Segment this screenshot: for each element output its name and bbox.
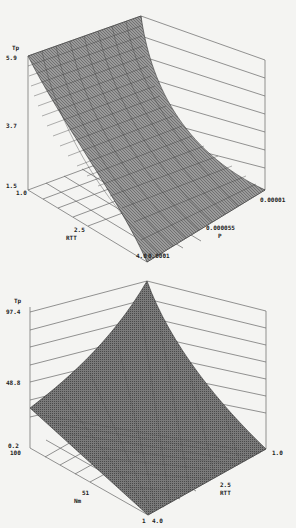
plot1-y-tick-start: 0.0001 [148,252,170,259]
plot2-x-tick-start: 100 [10,449,21,456]
plot2-x-tick-mid: 51 [82,489,90,496]
plot2-x-tick-end: 1 [142,517,146,524]
plot2-canvas: Tp 97.4 48.8 0.2 100 51 Nm 1 4.0 2.5 RTT… [0,265,296,528]
surface-plot-nm-rtt: Tp 97.4 48.8 0.2 100 51 Nm 1 4.0 2.5 RTT… [0,265,296,528]
plot2-z-tick-mid: 48.8 [6,379,21,386]
plot2-x-axis-label: Nm [74,497,82,504]
plot2-y-axis-label: RTT [220,489,231,496]
plot2-surface [30,281,266,515]
plot1-z-tick-top: 5.9 [6,54,17,61]
plot1-x-tick-end: 4.0 [136,252,147,259]
plot1-y-tick-mid: 0.000055 [206,224,235,231]
plot1-y-axis-label: P [218,232,222,239]
surface-plot-rtt-p: Tp 5.9 3.7 1.5 1.0 2.5 RTT 4.0 0.0001 0.… [0,0,296,265]
plot1-z-tick-bottom: 1.5 [6,182,17,189]
plot1-x-axis-label: RTT [66,234,77,241]
plot1-x-tick-mid: 2.5 [74,226,85,233]
plot2-z-tick-top: 97.4 [6,308,21,315]
plot2-y-tick-mid: 2.5 [220,481,231,488]
plot1-y-tick-end: 0.00001 [260,196,286,203]
plot1-x-tick-start: 1.0 [16,189,27,196]
plot1-z-tick-mid: 3.7 [6,122,17,129]
plot2-y-tick-end: 1.0 [272,449,283,456]
plot2-y-tick-start: 4.0 [152,517,163,524]
plot2-z-tick-bottom: 0.2 [8,442,19,449]
plot2-z-axis-label: Tp [14,297,22,305]
plot1-z-axis-label: Tp [12,44,20,52]
plot1-canvas: Tp 5.9 3.7 1.5 1.0 2.5 RTT 4.0 0.0001 0.… [0,0,296,265]
